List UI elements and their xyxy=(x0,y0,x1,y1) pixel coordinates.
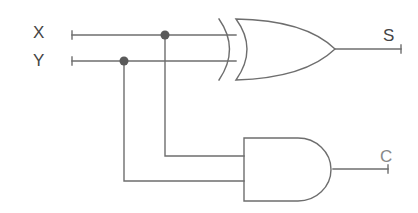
wire-s xyxy=(335,45,401,53)
junction-dot-x xyxy=(161,31,170,40)
junction-dot-y xyxy=(120,57,129,66)
wire-y-branch xyxy=(124,61,244,181)
and-gate xyxy=(244,138,331,201)
output-label-c: C xyxy=(380,148,392,165)
output-label-s: S xyxy=(383,27,394,44)
wire-x xyxy=(72,31,236,39)
wire-y xyxy=(72,57,236,65)
wire-c xyxy=(333,165,388,173)
input-label-x: X xyxy=(33,24,44,41)
input-label-y: Y xyxy=(33,52,44,69)
wire-x-branch xyxy=(165,35,244,156)
half-adder-circuit xyxy=(0,0,418,213)
xor-gate xyxy=(219,19,335,80)
